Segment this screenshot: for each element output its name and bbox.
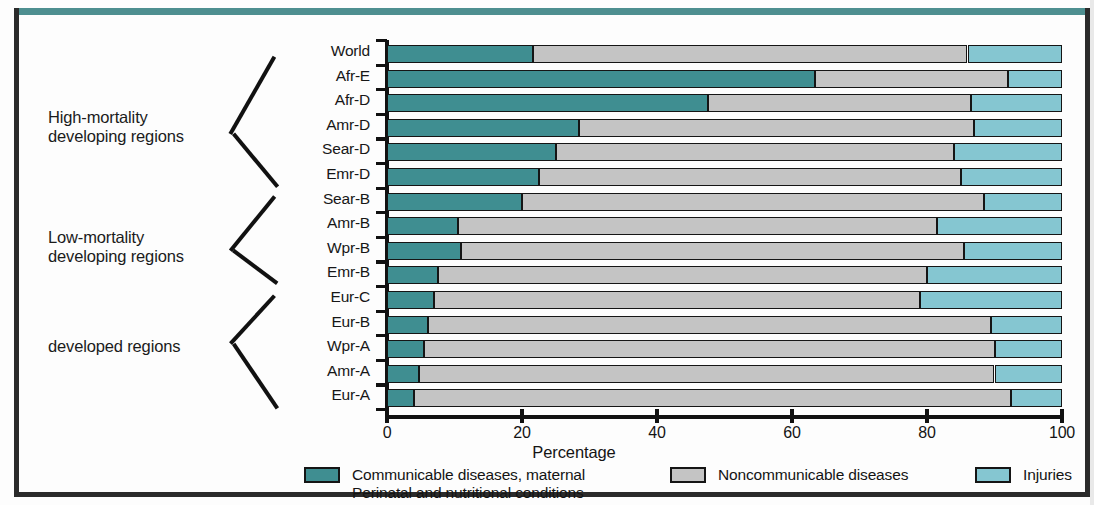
page-edge — [1090, 0, 1094, 505]
bar-segment — [579, 119, 974, 137]
category-tick — [376, 285, 387, 288]
bar-row — [387, 340, 1062, 358]
legend-swatch-2 — [670, 467, 706, 483]
category-label-amr-d: Amr-D — [326, 116, 370, 134]
bar-segment — [961, 168, 1062, 186]
category-label-sear-b: Sear-B — [323, 190, 370, 208]
bar-segment — [387, 242, 461, 260]
category-tick — [376, 310, 387, 313]
category-label-wpr-b: Wpr-B — [327, 239, 370, 257]
legend-item-2: Noncommunicable diseases — [670, 466, 920, 484]
bar-segment — [387, 143, 556, 161]
bar-segment — [522, 193, 984, 211]
category-tick — [376, 162, 387, 165]
chart-legend: Communicable diseases, maternal Perinata… — [0, 462, 1094, 502]
bar-row — [387, 143, 1062, 161]
bar-segment — [920, 291, 1062, 309]
bar-segment — [387, 340, 424, 358]
bar-segment — [428, 316, 992, 334]
plot-area — [387, 40, 1062, 415]
category-tick — [376, 88, 387, 91]
bar-segment — [984, 193, 1062, 211]
category-tick — [376, 187, 387, 190]
legend-item-3: Injuries — [975, 466, 1085, 484]
bar-segment — [387, 193, 522, 211]
bar-segment — [387, 168, 539, 186]
category-label-emr-d: Emr-D — [326, 165, 370, 183]
category-label-sear-d: Sear-D — [322, 140, 370, 158]
legend-item-1: Communicable diseases, maternal Perinata… — [304, 466, 634, 503]
bar-segment — [387, 70, 815, 88]
bar-segment — [458, 217, 937, 235]
bar-row — [387, 168, 1062, 186]
bar-segment — [1011, 389, 1062, 407]
bar-segment — [991, 316, 1062, 334]
category-axis-labels: WorldAfr-EAfr-DAmr-DSear-DEmr-DSear-BAmr… — [250, 0, 370, 430]
category-tick — [376, 359, 387, 362]
category-label-world: World — [331, 42, 370, 60]
bar-segment — [971, 94, 1062, 112]
bar-row — [387, 45, 1062, 63]
bar-row — [387, 291, 1062, 309]
bar-row — [387, 266, 1062, 284]
bar-segment — [387, 266, 438, 284]
bar-segment — [438, 266, 927, 284]
category-label-amr-b: Amr-B — [327, 214, 370, 232]
category-label-eur-b: Eur-B — [331, 313, 370, 331]
category-tick — [376, 408, 387, 411]
bar-segment — [556, 143, 954, 161]
bar-row — [387, 242, 1062, 260]
bar-segment — [387, 217, 458, 235]
bar-segment — [974, 119, 1062, 137]
category-tick — [376, 113, 387, 116]
x-axis-label-text: Percentage — [532, 443, 615, 461]
bar-segment — [414, 389, 1011, 407]
bar-segment — [533, 45, 968, 63]
bar-row — [387, 365, 1062, 383]
category-tick — [376, 236, 387, 239]
bar-segment — [387, 389, 414, 407]
bar-segment — [815, 70, 1008, 88]
bar-row — [387, 193, 1062, 211]
bar-segment — [461, 242, 964, 260]
chart-figure: High-mortality developing regionsLow-mor… — [0, 0, 1094, 505]
bar-segment — [968, 45, 1063, 63]
bar-row — [387, 316, 1062, 334]
x-tick-label-80: 80 — [918, 424, 935, 442]
category-label-amr-a: Amr-A — [327, 362, 370, 380]
category-label-eur-a: Eur-A — [331, 386, 370, 404]
category-label-eur-c: Eur-C — [331, 288, 370, 306]
bar-row — [387, 70, 1062, 88]
legend-label-3: Injuries — [1023, 466, 1072, 484]
bar-row — [387, 217, 1062, 235]
figure-left-border — [14, 8, 19, 497]
x-tick-label-60: 60 — [783, 424, 800, 442]
legend-swatch-3 — [975, 467, 1011, 483]
bar-segment — [387, 45, 533, 63]
category-tick — [376, 334, 387, 337]
x-tick-label-20: 20 — [513, 424, 530, 442]
category-label-afr-e: Afr-E — [336, 67, 370, 85]
figure-top-border — [14, 8, 1090, 15]
bar-row — [387, 94, 1062, 112]
x-tick-label-40: 40 — [648, 424, 665, 442]
category-tick — [376, 383, 387, 386]
legend-label-1: Communicable diseases, maternal Perinata… — [352, 466, 585, 503]
category-tick — [376, 64, 387, 67]
category-tick — [376, 39, 387, 42]
group-label-3: developed regions — [48, 337, 180, 356]
bar-segment — [927, 266, 1062, 284]
x-axis-label: Percentage — [0, 443, 1094, 462]
legend-label-2: Noncommunicable diseases — [718, 466, 908, 484]
x-axis-line — [387, 415, 1064, 419]
bar-segment — [708, 94, 971, 112]
category-tick — [376, 137, 387, 140]
bar-segment — [964, 242, 1062, 260]
bar-segment — [539, 168, 961, 186]
bar-segment — [419, 365, 994, 383]
legend-swatch-1 — [304, 467, 340, 483]
bar-row — [387, 389, 1062, 407]
category-label-afr-d: Afr-D — [335, 91, 370, 109]
x-tick-label-100: 100 — [1049, 424, 1075, 442]
bar-segment — [387, 316, 428, 334]
